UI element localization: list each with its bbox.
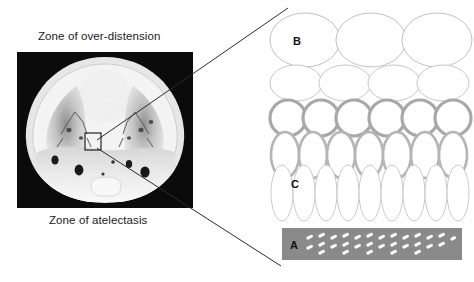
zone-letter-a: A [290,239,298,251]
alveoli-row-normal-round [270,100,471,136]
left-panel-ct: Zone of over-distension [0,0,266,282]
right-panel-alveoli: B C A [266,0,474,282]
alveoli-row-over-distended-medium [270,65,469,101]
label-zone-atelectasis: Zone of atelectasis [49,214,147,226]
ct-scan-image [17,52,193,208]
label-zone-over-distension: Zone of over-distension [38,30,160,42]
figure-root: Zone of over-distension [0,0,474,282]
alveoli-row-collapsing-narrow [271,165,469,221]
zone-letter-c: C [291,178,299,190]
atelectasis-band [282,228,462,260]
zone-letter-b: B [293,35,301,47]
